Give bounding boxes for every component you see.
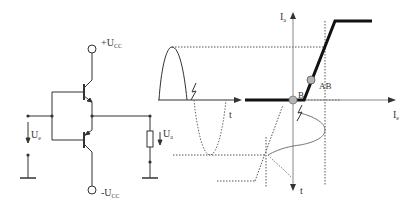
- transfer-characteristic-plot: [245, 12, 396, 191]
- diagram-canvas: [0, 0, 417, 211]
- y-axis-arrow-icon: [290, 12, 296, 19]
- junction-dots: [26, 114, 151, 163]
- positive-half-wave: [159, 47, 187, 100]
- waveform-time-label: t: [229, 110, 232, 120]
- x-axis-label: Ie: [393, 110, 399, 121]
- projection-lines: [172, 21, 340, 188]
- input-current-wave-solid: [268, 113, 325, 155]
- input-voltage-label: Ue: [31, 130, 41, 141]
- output-voltage-label: Ua: [163, 129, 173, 140]
- t-axis-label: t: [300, 186, 303, 196]
- negative-supply-label: -UCC: [101, 188, 120, 199]
- crossover-distortion-icon: [297, 105, 302, 121]
- pnp-transistor-icon: [84, 116, 92, 186]
- time-axis-arrow-icon: [234, 97, 242, 103]
- operating-point-b: [289, 96, 297, 104]
- negative-half-wave: [194, 100, 226, 155]
- input-current-wave-dotted: [268, 155, 291, 177]
- negative-supply-terminal: [88, 186, 96, 194]
- positive-supply-terminal: [88, 45, 96, 53]
- characteristic-curve: [245, 21, 372, 100]
- y-axis-label: Ia: [280, 12, 286, 23]
- class-b-push-pull-diagram: +UCC -UCC Ue Ua t Ia Ie t B AB: [0, 0, 417, 211]
- t-axis-arrow-icon: [290, 184, 296, 191]
- load-resistor: [147, 131, 153, 147]
- push-pull-circuit: [20, 45, 162, 194]
- operating-point-ab: [307, 76, 315, 84]
- npn-transistor-icon: [84, 78, 92, 116]
- x-axis-arrow-icon: [388, 97, 396, 103]
- crossover-distortion-icon: [191, 83, 196, 100]
- point-ab-label: AB: [319, 82, 332, 91]
- positive-supply-label: +UCC: [101, 38, 122, 49]
- point-b-label: B: [298, 91, 304, 100]
